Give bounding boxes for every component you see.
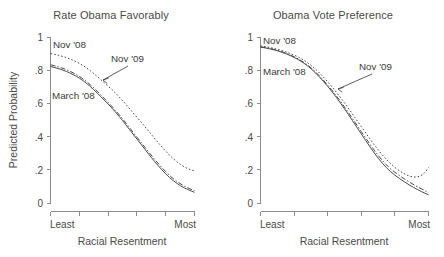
series-label-nov-08-left: Nov '08	[53, 39, 86, 50]
y-tick-label-06-right: .6	[245, 98, 254, 109]
y-tick-label-08-right: .8	[245, 65, 254, 76]
x-tick-label-least-left: Least	[50, 219, 75, 230]
series-label-march-08-left: March '08	[52, 90, 95, 101]
figure-two-panel-line-charts: Rate Obama Favorably 1 .8 .6 .4 .2 0 Pre…	[0, 0, 444, 257]
y-tick-label-04-right: .4	[245, 132, 254, 143]
y-tick-label-04-left: .4	[35, 132, 44, 143]
plot-left: 1 .8 .6 .4 .2 0 Predicted Probability Le…	[0, 0, 222, 257]
panel-rate-obama-favorably: Rate Obama Favorably 1 .8 .6 .4 .2 0 Pre…	[0, 0, 222, 257]
y-tick-label-02-right: .2	[245, 165, 254, 176]
curve-march-08-left	[51, 67, 195, 193]
y-tick-label-1-right: 1	[247, 32, 253, 43]
annotation-leader-nov-09-right	[338, 74, 372, 89]
x-tick-label-most-left: Most	[174, 219, 196, 230]
x-axis-title-left: Racial Resentment	[78, 235, 167, 247]
y-tick-label-06-left: .6	[35, 98, 44, 109]
annotation-leader-nov-09-left	[103, 66, 128, 80]
series-label-nov-09-left: Nov '09	[111, 53, 144, 64]
annotation-arrowhead-nov-09-right	[338, 87, 344, 92]
series-label-nov-09-right: Nov '09	[359, 61, 392, 72]
curve-nov-09-left	[51, 65, 195, 191]
series-label-nov-08-right: Nov '08	[263, 35, 296, 46]
x-tick-label-least-right: Least	[260, 219, 285, 230]
y-tick-label-02-left: .2	[35, 165, 44, 176]
y-tick-label-0-left: 0	[37, 198, 43, 209]
y-tick-label-08-left: .8	[35, 65, 44, 76]
y-axis-title-left: Predicted Probability	[7, 71, 19, 168]
y-tick-label-1-left: 1	[37, 32, 43, 43]
x-axis-title-right: Racial Resentment	[300, 235, 389, 247]
series-label-march-08-right: March '08	[263, 66, 306, 77]
x-tick-label-most-right: Most	[408, 219, 430, 230]
plot-right: 1 .8 .6 .4 .2 0 Least Most Racial Resent…	[222, 0, 444, 257]
curve-nov-08-left	[51, 54, 195, 171]
y-tick-label-0-right: 0	[247, 198, 253, 209]
panel-obama-vote-preference: Obama Vote Preference 1 .8 .6 .4 .2 0	[222, 0, 444, 257]
